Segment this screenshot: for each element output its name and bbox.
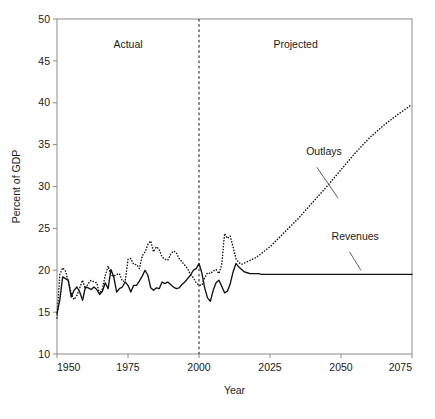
x-tick-label: 1975	[116, 361, 140, 373]
y-tick-label: 40	[38, 96, 50, 108]
x-tick-label: 1950	[57, 361, 81, 373]
cbo-outlays-revenues-chart: 1015202530354045501950197520002025205020…	[0, 0, 435, 419]
y-tick-label: 50	[38, 13, 50, 25]
annotation-revenues: Revenues	[332, 230, 379, 242]
annotation-outlays: Outlays	[306, 145, 342, 157]
chart-figure: 1015202530354045501950197520002025205020…	[0, 0, 435, 419]
y-tick-label: 25	[38, 222, 50, 234]
x-tick-label: 2000	[187, 361, 211, 373]
y-tick-label: 30	[38, 180, 50, 192]
revenues-leader-line	[350, 252, 361, 270]
annotation-actual: Actual	[113, 38, 142, 50]
x-tick-label: 2075	[389, 361, 413, 373]
y-tick-label: 45	[38, 55, 50, 67]
x-axis-title: Year	[224, 384, 246, 396]
x-tick-label: 2050	[329, 361, 353, 373]
y-tick-label: 10	[38, 348, 50, 360]
y-axis-title: Percent of GDP	[10, 150, 22, 224]
y-tick-label: 15	[38, 306, 50, 318]
series-line-outlays	[57, 104, 412, 318]
y-tick-label: 20	[38, 264, 50, 276]
y-tick-label: 35	[38, 138, 50, 150]
annotation-projected: Projected	[273, 38, 318, 50]
outlays-leader-line	[317, 167, 338, 198]
plot-frame	[57, 19, 412, 354]
x-tick-label: 2025	[258, 361, 282, 373]
